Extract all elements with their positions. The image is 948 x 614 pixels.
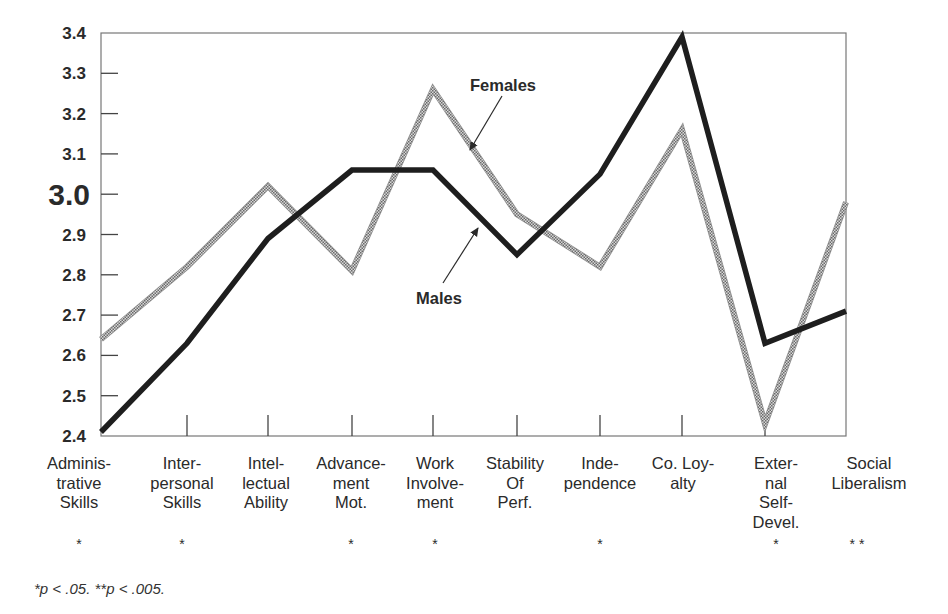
females-line	[101, 89, 846, 424]
x-category-label: Inter-	[163, 454, 202, 472]
x-category-label: Mot.	[335, 493, 367, 511]
y-tick-label: 2.9	[62, 226, 86, 245]
x-category-label: Skills	[163, 493, 202, 511]
y-tick-label: 2.8	[62, 266, 86, 285]
y-tick-label: 2.4	[62, 427, 86, 446]
x-category-label: Devel.	[753, 513, 800, 531]
x-category-label: Of	[506, 474, 524, 492]
x-category-label: Self-	[759, 493, 793, 511]
x-category-label: Liberalism	[831, 474, 906, 492]
significance-marker: *	[76, 536, 82, 552]
x-category-label: ment	[333, 474, 370, 492]
significance-marker: *	[179, 536, 185, 552]
y-tick-label: 3.1	[62, 145, 86, 164]
x-category-label: Perf.	[498, 493, 533, 511]
y-axis: 3.43.33.23.13.02.92.82.72.62.52.4	[48, 24, 118, 446]
x-category-label: Social	[847, 454, 892, 472]
x-category-label: pendence	[564, 474, 637, 492]
annotations: Females Males	[416, 76, 536, 307]
x-category-label: Intel-	[248, 454, 285, 472]
significance-marker: * *	[850, 536, 865, 552]
significance-marker: *	[597, 536, 603, 552]
x-category-label: Involve-	[406, 474, 464, 492]
males-arrow	[443, 228, 478, 283]
x-category-label: alty	[670, 474, 696, 492]
y-tick-label: 2.5	[62, 387, 86, 406]
x-category-label: Advance-	[316, 454, 386, 472]
significance-marker: *	[432, 536, 438, 552]
x-category-label: lectual	[242, 474, 290, 492]
females-line-base	[101, 89, 846, 424]
x-category-label: Co. Loy-	[652, 454, 714, 472]
x-category-label: Skills	[60, 493, 99, 511]
females-arrow	[470, 96, 502, 150]
x-category-label: Inde-	[581, 454, 619, 472]
x-category-label: trative	[57, 474, 102, 492]
significance-footnote: *p < .05. **p < .005.	[34, 580, 165, 597]
males-label: Males	[416, 289, 462, 307]
x-category-label: Exter-	[754, 454, 798, 472]
x-category-label: personal	[150, 474, 213, 492]
x-category-label: ment	[417, 493, 454, 511]
y-tick-label: 3.2	[62, 105, 86, 124]
significance-marker: *	[348, 536, 354, 552]
y-tick-label: 3.4	[62, 24, 86, 43]
x-category-label: Stability	[486, 454, 545, 472]
y-tick-label: 3.0	[48, 178, 90, 211]
x-category-label: nal	[765, 474, 787, 492]
y-tick-label: 3.3	[62, 64, 86, 83]
females-label: Females	[470, 76, 536, 94]
y-tick-label: 2.6	[62, 346, 86, 365]
x-category-label: Ability	[244, 493, 289, 511]
x-category-label: Adminis-	[47, 454, 111, 472]
y-tick-label: 2.7	[62, 306, 86, 325]
significance-marker: *	[773, 536, 779, 552]
line-chart: 3.43.33.23.13.02.92.82.72.62.52.4 Admini…	[0, 0, 948, 614]
x-category-label: Work	[416, 454, 455, 472]
